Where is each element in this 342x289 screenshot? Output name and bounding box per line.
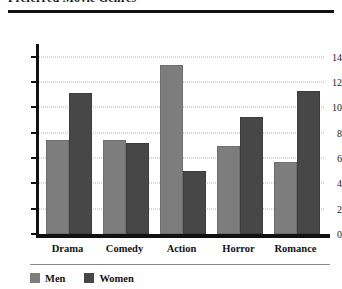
legend-divider-rule: [30, 264, 330, 265]
legend-label-men: Men: [45, 273, 65, 284]
x-category-label-romance: Romance: [275, 243, 317, 254]
legend-item-men: Men: [30, 273, 65, 284]
bar-horror-women: [240, 117, 263, 234]
chart-legend: MenWomen: [30, 272, 146, 284]
bar-drama-women: [69, 93, 92, 234]
legend-swatch-women: [84, 273, 94, 283]
x-category-label-drama: Drama: [52, 243, 84, 254]
legend-swatch-men: [30, 273, 40, 283]
bar-action-women: [183, 171, 206, 234]
x-axis-line: [36, 234, 330, 238]
bar-horror-men: [217, 146, 240, 234]
bars-layer: [0, 18, 342, 240]
x-category-label-action: Action: [167, 243, 197, 254]
x-axis-category-labels: DramaComedyActionHorrorRomance: [0, 243, 342, 259]
legend-label-women: Women: [99, 273, 133, 284]
bar-drama-men: [46, 140, 69, 234]
legend-item-women: Women: [84, 273, 133, 284]
title-divider-rule: [8, 10, 334, 13]
bar-romance-women: [297, 91, 320, 234]
bar-comedy-men: [103, 140, 126, 234]
x-category-label-comedy: Comedy: [106, 243, 143, 254]
bar-action-men: [160, 65, 183, 234]
plot-area: 02468101214: [0, 18, 342, 240]
bar-romance-men: [274, 162, 297, 234]
bar-chart-figure: Preferred Movie Genres 02468101214 Drama…: [0, 0, 342, 289]
x-category-label-horror: Horror: [222, 243, 254, 254]
page-title: Preferred Movie Genres: [8, 0, 136, 6]
chart-title-cropped: Preferred Movie Genres: [0, 0, 342, 9]
bar-comedy-women: [126, 143, 149, 234]
